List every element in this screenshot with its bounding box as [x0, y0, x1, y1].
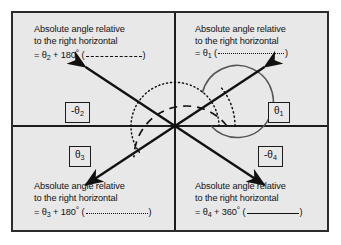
- line-style-sample-dashed: [86, 56, 142, 57]
- line-style-sample-dotted: [218, 53, 284, 54]
- line-style-sample-dotted-fine: [86, 213, 148, 214]
- arc-theta3-dotted-fine: [131, 82, 219, 154]
- paren-close: ): [285, 48, 288, 58]
- paren-close: ): [300, 208, 303, 218]
- caption-top-right: Absolute angle relative to the right hor…: [195, 23, 288, 62]
- caption-line-2: to the right horizontal: [34, 192, 151, 204]
- paren-open: (: [212, 48, 217, 58]
- theta-expression-prefix: = θ: [34, 208, 47, 218]
- angle-label-text: -θ: [264, 149, 273, 160]
- caption-line-3: = θ1 (): [195, 47, 288, 62]
- caption-line-2: to the right horizontal: [195, 192, 302, 204]
- paren-open: (: [79, 51, 84, 61]
- angle-label-box-q4: -θ4: [258, 146, 283, 167]
- paren-open: (: [240, 208, 245, 218]
- angle-convention-figure: Absolute angle relative to the right hor…: [11, 11, 329, 232]
- caption-line-3: = θ3 + 180° (): [34, 204, 151, 221]
- caption-line-1: Absolute angle relative: [195, 180, 302, 192]
- caption-line-3: = θ2 + 180° (): [34, 47, 145, 64]
- caption-line-1: Absolute angle relative: [34, 180, 151, 192]
- paren-open: (: [79, 208, 84, 218]
- caption-line-2: to the right horizontal: [34, 35, 145, 47]
- caption-top-left: Absolute angle relative to the right hor…: [34, 23, 145, 65]
- angle-label-subscript: 4: [273, 153, 277, 162]
- line-style-sample-solid: [247, 213, 299, 214]
- angle-label-box-q2: -θ2: [65, 102, 90, 123]
- theta-expression-prefix: = θ: [195, 208, 208, 218]
- caption-bottom-right: Absolute angle relative to the right hor…: [195, 180, 302, 222]
- caption-bottom-left: Absolute angle relative to the right hor…: [34, 180, 151, 222]
- paren-close: ): [143, 51, 146, 61]
- angle-label-box-q1: θ1: [268, 102, 290, 123]
- caption-line-2: to the right horizontal: [195, 35, 288, 47]
- arc-theta2-dashed: [134, 106, 227, 157]
- paren-close: ): [149, 208, 152, 218]
- angle-label-text: -θ: [71, 105, 80, 116]
- caption-line-1: Absolute angle relative: [195, 23, 288, 35]
- theta-offset: + 180: [51, 51, 76, 61]
- theta-expression-prefix: = θ: [34, 51, 47, 61]
- angle-label-subscript: 3: [81, 153, 85, 162]
- theta-expression-prefix: = θ: [195, 48, 208, 58]
- angle-label-box-q3: θ3: [69, 146, 91, 167]
- theta-offset: + 360: [212, 208, 237, 218]
- angle-label-subscript: 2: [80, 109, 84, 118]
- caption-line-1: Absolute angle relative: [34, 23, 145, 35]
- angle-label-subscript: 1: [280, 109, 284, 118]
- caption-line-3: = θ4 + 360° (): [195, 204, 302, 221]
- theta-offset: + 180: [51, 208, 76, 218]
